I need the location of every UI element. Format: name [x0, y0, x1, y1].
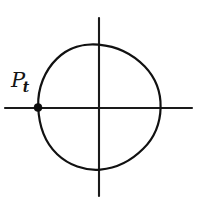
point-marker-dot	[34, 104, 42, 112]
figure-canvas: Pt	[0, 0, 201, 202]
diagram-svg	[0, 0, 201, 202]
point-label-subscript: t	[23, 79, 29, 95]
point-label-pt: Pt	[11, 70, 31, 91]
